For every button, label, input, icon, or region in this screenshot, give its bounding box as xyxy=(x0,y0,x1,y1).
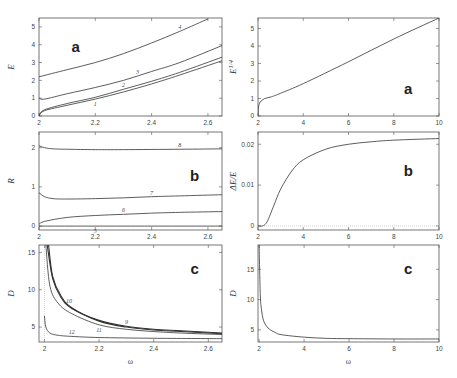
y-tick-label: 0.01 xyxy=(241,181,254,188)
data-series-11 xyxy=(46,245,222,335)
chart-panel-left-b: 22.22.42.6012Rb5678 xyxy=(6,132,222,240)
y-axis-label: E xyxy=(6,64,16,71)
panel-label: b xyxy=(190,167,199,184)
data-series-10 xyxy=(49,245,222,334)
y-tick-label: 1 xyxy=(31,183,35,190)
x-tick-label: 8 xyxy=(392,233,396,240)
x-tick-label: 4 xyxy=(302,345,306,352)
y-axis-label: D xyxy=(228,290,238,298)
x-tick-label: 2.4 xyxy=(149,345,158,352)
y-tick-label: 3 xyxy=(250,60,254,67)
x-tick-label: 2.4 xyxy=(147,233,156,240)
curve-label: 9 xyxy=(125,319,128,325)
y-tick-label: 1 xyxy=(31,94,35,101)
y-tick-label: 10 xyxy=(247,296,255,303)
x-axis-label: ω xyxy=(128,357,133,366)
x-axis-label: ω xyxy=(346,357,351,366)
x-tick-label: 4 xyxy=(301,233,305,240)
x-tick-label: 6 xyxy=(347,119,351,126)
x-tick-label: 2 xyxy=(37,233,41,240)
y-tick-label: 2 xyxy=(31,77,35,84)
y-axis-label: ΔE/E xyxy=(228,171,238,191)
y-tick-label: 0 xyxy=(31,222,35,229)
y-tick-label: 0 xyxy=(250,222,254,229)
x-tick-label: 2.4 xyxy=(147,119,156,126)
figure: 22.22.42.6012345Ea123422.22.42.6012Rb567… xyxy=(0,0,457,378)
x-tick-label: 2 xyxy=(256,119,260,126)
data-series-6 xyxy=(39,212,222,225)
x-tick-label: 2 xyxy=(37,119,41,126)
curve-label: 4 xyxy=(178,24,181,30)
x-tick-label: 2.2 xyxy=(95,345,104,352)
curve-label: 10 xyxy=(66,298,72,304)
panel-label: b xyxy=(404,162,413,179)
x-tick-label: 2 xyxy=(257,345,261,352)
x-tick-label: 2 xyxy=(43,345,47,352)
x-tick-label: 4 xyxy=(301,119,305,126)
data-series-4 xyxy=(39,19,208,77)
y-tick-label: 4 xyxy=(31,41,35,48)
x-tick-label: 2 xyxy=(256,233,260,240)
y-axis-label: D xyxy=(6,290,16,298)
data-series-8 xyxy=(39,146,222,150)
y-tick-label: 5 xyxy=(250,25,254,32)
x-tick-label: 2.2 xyxy=(91,119,100,126)
panel-label: c xyxy=(190,260,198,277)
data-series-7 xyxy=(39,193,222,199)
y-tick-label: 4 xyxy=(250,42,254,49)
x-tick-label: 10 xyxy=(435,345,443,352)
panel-label: c xyxy=(404,260,412,277)
y-tick-label: 2 xyxy=(250,77,254,84)
chart-panel-left-c: 22.22.42.651015Dωc9101112 xyxy=(6,245,222,366)
curve-label: 8 xyxy=(178,142,181,148)
curve-label: 7 xyxy=(150,190,154,196)
y-axis-label: E1/4 xyxy=(227,59,238,75)
x-tick-label: 6 xyxy=(347,345,351,352)
y-tick-label: 5 xyxy=(31,323,35,330)
data-series-ΔE/E xyxy=(258,139,439,227)
x-tick-label: 2.6 xyxy=(203,233,212,240)
y-tick-label: 15 xyxy=(28,249,36,256)
y-tick-label: 15 xyxy=(247,266,255,273)
x-tick-label: 8 xyxy=(392,119,396,126)
y-tick-label: 0.02 xyxy=(241,141,254,148)
y-tick-label: 0 xyxy=(31,112,35,119)
plot-frame xyxy=(258,18,439,116)
curve-label: 3 xyxy=(135,69,139,75)
y-axis-label: R xyxy=(6,178,16,185)
chart-panel-right-c: 24681051015Dωc xyxy=(228,245,443,366)
data-series-9 xyxy=(47,245,222,333)
x-tick-label: 10 xyxy=(435,233,443,240)
x-tick-label: 8 xyxy=(392,345,396,352)
data-series-D xyxy=(259,245,439,339)
curve-label: 12 xyxy=(69,329,75,335)
y-tick-label: 0 xyxy=(250,112,254,119)
curve-label: 1 xyxy=(94,101,97,107)
panel-label: a xyxy=(404,80,413,97)
x-tick-label: 2.6 xyxy=(204,345,213,352)
y-tick-label: 5 xyxy=(31,23,35,30)
curve-label: 11 xyxy=(96,327,102,333)
curve-label: 2 xyxy=(122,82,125,88)
y-tick-label: 1 xyxy=(250,95,254,102)
y-tick-label: 10 xyxy=(28,286,36,293)
data-series-2 xyxy=(39,57,222,115)
curve-label: 5 xyxy=(94,228,97,234)
curve-label: 6 xyxy=(122,207,125,213)
data-series-1 xyxy=(39,61,222,116)
chart-panel-right-a: 246810012345E1/4a xyxy=(227,18,443,126)
x-tick-label: 6 xyxy=(347,233,351,240)
data-series-E^1/4 xyxy=(258,18,439,116)
chart-panel-left-a: 22.22.42.6012345Ea1234 xyxy=(6,18,222,126)
chart-panel-right-b: 24681000.010.02ΔE/Eb xyxy=(228,132,443,240)
panel-label: a xyxy=(71,38,80,55)
x-tick-label: 10 xyxy=(435,119,443,126)
y-tick-label: 2 xyxy=(31,144,35,151)
data-series-3 xyxy=(39,46,222,100)
y-tick-label: 3 xyxy=(31,59,35,66)
x-tick-label: 2.6 xyxy=(203,119,212,126)
y-tick-label: 5 xyxy=(250,326,254,333)
